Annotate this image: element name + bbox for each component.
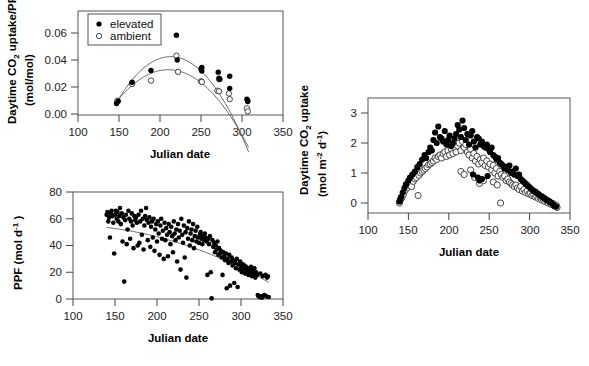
data-point [131, 246, 136, 251]
data-point [216, 69, 221, 74]
data-point [167, 230, 172, 235]
x-axis-title: Julian date [439, 246, 499, 258]
data-point [168, 242, 173, 247]
data-point [151, 235, 156, 240]
data-point [187, 219, 192, 224]
data-point [124, 242, 129, 247]
data-point [494, 182, 500, 188]
y-axis-ticks: 3 2 1 0 [351, 107, 368, 209]
y-tick-label: 40 [49, 239, 62, 251]
y-tick-label: 0.06 [45, 27, 67, 39]
data-point [125, 227, 130, 232]
y-axis-title-line2: (mol/mol) [23, 54, 35, 106]
data-point [174, 33, 179, 38]
data-point [435, 123, 441, 129]
data-point [191, 222, 196, 227]
data-point [175, 259, 180, 264]
legend-marker-ambient [96, 33, 101, 38]
data-point [484, 173, 490, 179]
data-point [252, 266, 257, 271]
data-point [145, 238, 150, 243]
data-point [217, 76, 222, 81]
x-tick-label: 350 [273, 310, 292, 322]
data-point [166, 254, 171, 259]
data-point [227, 86, 232, 91]
x-axis-ticks: 100 150 200 250 300 350 [63, 299, 292, 322]
data-point [207, 242, 212, 247]
y-axis-title-line2: (mol m-2 d-1) [315, 131, 328, 197]
data-point [227, 74, 232, 79]
data-point [175, 69, 180, 74]
data-point [186, 237, 191, 242]
data-point [415, 192, 421, 198]
data-point [497, 200, 503, 206]
data-point [199, 65, 204, 70]
data-point [129, 219, 134, 224]
data-point [232, 281, 237, 286]
data-point [159, 216, 164, 221]
x-axis-ticks: 100 150 200 250 300 350 [358, 213, 579, 236]
panel-uptake-per-ppf: Daytime CO2 uptake/PPF (mol/mol) 0.06 0.… [0, 0, 300, 170]
data-point [193, 228, 198, 233]
data-point [245, 109, 250, 114]
data-point [198, 230, 203, 235]
data-point [228, 283, 233, 288]
data-point [109, 208, 114, 213]
data-point [108, 235, 113, 240]
legend-label-elevated: elevated [110, 18, 153, 30]
legend-label-ambient: ambient [110, 30, 152, 42]
data-point [208, 234, 213, 239]
data-point [235, 285, 240, 290]
data-point [179, 216, 184, 221]
y-tick-label: 0.04 [45, 54, 68, 66]
y-axis-title: PPF (mol d-1 ) [11, 216, 24, 290]
data-point [120, 239, 125, 244]
data-point [227, 96, 232, 101]
data-point [137, 241, 142, 246]
legend: elevated ambient [88, 14, 161, 45]
y-tick-label: 0 [56, 293, 62, 305]
data-point [111, 220, 116, 225]
panel-uptake-area: Daytime CO2 uptake (mol m-2 d-1) 3 2 1 0… [290, 80, 589, 280]
data-point [158, 223, 163, 228]
data-point [149, 224, 154, 229]
data-point [489, 144, 495, 150]
data-point [115, 98, 120, 103]
x-tick-label: 250 [479, 224, 498, 236]
legend-marker-elevated [96, 21, 101, 26]
data-point [129, 80, 134, 85]
data-point [115, 210, 120, 215]
data-point [187, 243, 192, 248]
data-point [143, 214, 148, 219]
data-point [185, 226, 190, 231]
data-point [157, 253, 162, 258]
data-point [461, 125, 467, 131]
y-axis-title-line1: Daytime CO2 uptake/PPF [6, 0, 21, 124]
x-tick-label: 150 [109, 126, 128, 138]
y-tick-label: 0 [351, 197, 357, 209]
data-point [506, 162, 512, 168]
data-point [461, 171, 467, 177]
x-tick-label: 350 [560, 224, 579, 236]
y-tick-label: 0.00 [45, 108, 67, 120]
x-axis-title: Julian date [150, 148, 210, 160]
x-tick-label: 200 [147, 310, 166, 322]
data-point [423, 155, 429, 161]
data-point [155, 239, 160, 244]
y-axis-ticks: 80 60 40 20 0 [49, 186, 73, 305]
data-point [162, 220, 167, 225]
data-point [142, 223, 147, 228]
data-point [177, 228, 182, 233]
data-point [434, 140, 440, 146]
data-point [118, 206, 123, 211]
data-point [171, 250, 176, 255]
data-point [199, 79, 204, 84]
data-point [112, 251, 117, 256]
data-point [123, 218, 128, 223]
data-point [182, 255, 187, 260]
data-point [122, 279, 127, 284]
x-axis-title: Julian date [148, 332, 208, 344]
data-point [429, 147, 435, 153]
x-tick-label: 200 [439, 224, 458, 236]
y-tick-label: 80 [49, 186, 62, 198]
